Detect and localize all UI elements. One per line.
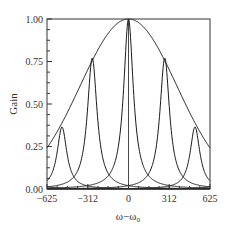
y-tick-label: 0.25: [26, 141, 44, 152]
plot-lines: [47, 19, 210, 189]
x-tick-label: −312: [77, 193, 98, 204]
y-tick-label: 1.00: [26, 14, 44, 25]
y-tick-label: 0.75: [26, 56, 44, 67]
y-axis-title: Gain: [7, 93, 19, 115]
gain-chart: 0.000.250.500.751.00 −625−3120312625 ω−ω…: [0, 0, 231, 234]
x-tick-label: 312: [162, 193, 177, 204]
x-tick-label: −625: [37, 193, 58, 204]
x-tick-label: 625: [203, 193, 218, 204]
y-axis-ticks: 0.000.250.500.751.00: [26, 14, 53, 195]
x-tick-label: 0: [126, 193, 131, 204]
y-tick-label: 0.50: [26, 99, 44, 110]
x-axis-title: ω−ω₀: [116, 210, 141, 222]
